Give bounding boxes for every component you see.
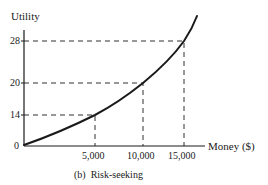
y-tick-label-14: 14 bbox=[0, 109, 20, 121]
x-tick-label-5000: 5,000 bbox=[82, 150, 105, 162]
utility-curve bbox=[24, 16, 197, 145]
chart-caption: (b) Risk-seeking bbox=[74, 169, 143, 181]
y-axis-title: Utility bbox=[11, 10, 40, 22]
x-tick-label-10000: 10,000 bbox=[127, 150, 155, 162]
y-tick-label-20: 20 bbox=[0, 77, 20, 89]
x-axis-title: Money ($) bbox=[208, 140, 255, 152]
reference-lines bbox=[24, 41, 184, 146]
ref-line-15000-28 bbox=[24, 41, 184, 146]
ref-line-10000-20 bbox=[24, 83, 143, 146]
y-tick-label-28: 28 bbox=[0, 35, 20, 47]
y-tick-label-0: 0 bbox=[0, 140, 19, 152]
x-tick-label-15000: 15,000 bbox=[168, 150, 196, 162]
